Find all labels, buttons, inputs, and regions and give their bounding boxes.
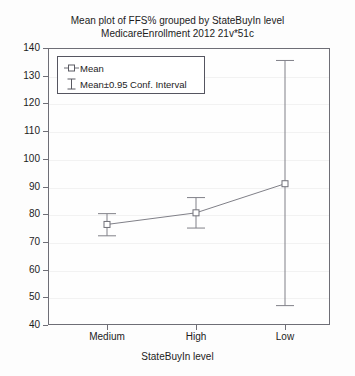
y-tick-mark xyxy=(43,76,48,77)
y-tick-mark xyxy=(43,214,48,215)
mean-plot-figure: Mean plot of FFS% grouped by StateBuyIn … xyxy=(0,0,355,376)
x-tick-label: Low xyxy=(245,331,325,342)
y-tick-label: 130 xyxy=(0,71,40,81)
y-tick-mark xyxy=(43,270,48,271)
gridline xyxy=(49,104,329,105)
gridline xyxy=(49,160,329,161)
y-tick-label: 50 xyxy=(0,292,40,302)
chart-legend: Mean Mean±0.95 Conf. Interval xyxy=(57,56,205,94)
legend-item-conf-interval: Mean±0.95 Conf. Interval xyxy=(63,76,199,92)
gridline xyxy=(49,215,329,216)
y-tick-label: 140 xyxy=(0,43,40,53)
y-tick-label: 40 xyxy=(0,320,40,330)
square-marker-icon xyxy=(63,61,80,75)
y-tick-label: 120 xyxy=(0,98,40,108)
legend-label-conf-interval: Mean±0.95 Conf. Interval xyxy=(80,79,187,90)
y-tick-label: 60 xyxy=(0,265,40,275)
x-tick-mark xyxy=(285,325,286,330)
x-tick-mark xyxy=(196,325,197,330)
gridline xyxy=(49,132,329,133)
gridline xyxy=(49,298,329,299)
y-tick-label: 70 xyxy=(0,237,40,247)
error-bar-marker-icon xyxy=(63,77,80,91)
gridline xyxy=(49,243,329,244)
x-tick-label: High xyxy=(156,331,236,342)
gridline xyxy=(49,271,329,272)
legend-label-mean: Mean xyxy=(80,63,104,74)
y-tick-mark xyxy=(43,103,48,104)
x-tick-label: Medium xyxy=(67,331,147,342)
y-tick-mark xyxy=(43,48,48,49)
y-tick-mark xyxy=(43,325,48,326)
legend-item-mean: Mean xyxy=(63,60,199,76)
y-tick-label: 100 xyxy=(0,154,40,164)
y-tick-mark xyxy=(43,297,48,298)
gridline xyxy=(49,188,329,189)
chart-subtitle: MedicareEnrollment 2012 21v*51c xyxy=(0,27,355,40)
y-tick-label: 90 xyxy=(0,182,40,192)
y-tick-label: 110 xyxy=(0,126,40,136)
y-tick-mark xyxy=(43,131,48,132)
x-axis-title: StateBuyIn level xyxy=(0,351,355,362)
y-tick-mark xyxy=(43,187,48,188)
x-tick-mark xyxy=(107,325,108,330)
chart-title: Mean plot of FFS% grouped by StateBuyIn … xyxy=(0,14,355,27)
chart-title-block: Mean plot of FFS% grouped by StateBuyIn … xyxy=(0,14,355,40)
y-tick-label: 80 xyxy=(0,209,40,219)
y-tick-mark xyxy=(43,159,48,160)
y-tick-mark xyxy=(43,242,48,243)
